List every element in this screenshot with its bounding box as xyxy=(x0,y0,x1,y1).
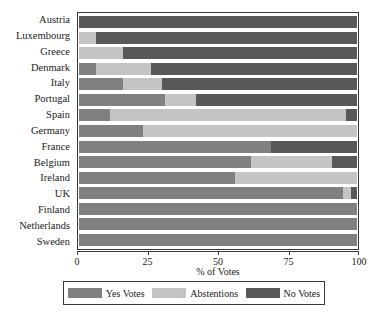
y-axis-label: Denmark xyxy=(0,62,73,74)
bar-row xyxy=(79,141,357,153)
legend-swatch xyxy=(246,288,280,298)
legend-item: Yes Votes xyxy=(68,288,145,299)
bar-row xyxy=(79,172,357,184)
bar-segment xyxy=(79,16,357,28)
bar-segment xyxy=(196,94,357,106)
bar-segment xyxy=(79,32,96,44)
bar-segment xyxy=(110,109,346,121)
bar-segment xyxy=(79,234,357,246)
bar-segment xyxy=(79,218,357,230)
x-axis-title: % of Votes xyxy=(77,266,359,277)
bar-row xyxy=(79,47,357,59)
legend-label: Yes Votes xyxy=(106,288,145,299)
bar-segment xyxy=(165,94,196,106)
vote-distribution-chart: of Votes by Country AustriaLuxembourgGre… xyxy=(0,0,388,312)
bar-segment xyxy=(332,156,357,168)
bar-segment xyxy=(79,78,123,90)
y-axis-label: Austria xyxy=(0,14,73,26)
bar-segment xyxy=(343,187,351,199)
legend-label: Abstentions xyxy=(190,288,238,299)
legend-item: No Votes xyxy=(246,288,321,299)
legend-label: No Votes xyxy=(284,288,321,299)
bar-row xyxy=(79,218,357,230)
y-axis-label: Greece xyxy=(0,46,73,58)
bar-row xyxy=(79,78,357,90)
bar-segment xyxy=(123,47,357,59)
y-axis-label: Ireland xyxy=(0,172,73,184)
bar-row xyxy=(79,156,357,168)
bar-segment xyxy=(123,78,162,90)
x-tick-mark xyxy=(148,251,149,255)
y-axis-label: UK xyxy=(0,188,73,200)
bar-segment xyxy=(79,47,123,59)
bar-segment xyxy=(79,109,110,121)
x-tick-mark xyxy=(218,251,219,255)
y-axis-label: Luxembourg xyxy=(0,30,73,42)
bar-segment xyxy=(271,141,357,153)
bar-segment xyxy=(162,78,357,90)
y-axis-label: Sweden xyxy=(0,236,73,248)
legend-swatch xyxy=(68,288,102,298)
y-axis-label: Belgium xyxy=(0,157,73,169)
x-tick-mark xyxy=(358,251,359,255)
bar-segment xyxy=(79,63,96,75)
y-axis-label: Portugal xyxy=(0,93,73,105)
legend-swatch xyxy=(152,288,186,298)
plot-area xyxy=(77,12,359,250)
y-axis-label: Netherlands xyxy=(0,220,73,232)
bar-row xyxy=(79,109,357,121)
bar-segment xyxy=(143,125,357,137)
bar-row xyxy=(79,234,357,246)
y-axis-label: Spain xyxy=(0,109,73,121)
bar-row xyxy=(79,63,357,75)
bar-segment xyxy=(151,63,357,75)
bar-segment xyxy=(79,156,251,168)
y-axis-category-labels: AustriaLuxembourgGreeceDenmarkItalyPortu… xyxy=(0,12,73,250)
bar-segment xyxy=(79,94,165,106)
bar-row xyxy=(79,203,357,215)
bar-segment xyxy=(79,141,271,153)
bar-segment xyxy=(346,109,357,121)
x-tick-mark xyxy=(77,251,78,255)
bar-segment xyxy=(79,125,143,137)
legend-item: Abstentions xyxy=(152,288,238,299)
bar-segment xyxy=(79,203,357,215)
y-axis-label: Finland xyxy=(0,204,73,216)
y-axis-label: Germany xyxy=(0,125,73,137)
bar-segment xyxy=(251,156,332,168)
chart-legend: Yes VotesAbstentionsNo Votes xyxy=(63,281,325,305)
bar-row xyxy=(79,187,357,199)
bar-segment xyxy=(96,32,357,44)
bar-row xyxy=(79,32,357,44)
bars-container xyxy=(79,14,357,248)
bar-row xyxy=(79,94,357,106)
bar-segment xyxy=(351,187,357,199)
bar-segment xyxy=(96,63,152,75)
bar-row xyxy=(79,125,357,137)
bar-row xyxy=(79,16,357,28)
x-tick-mark xyxy=(289,251,290,255)
y-axis-label: France xyxy=(0,141,73,153)
bar-segment xyxy=(235,172,357,184)
bar-segment xyxy=(79,187,343,199)
bar-segment xyxy=(79,172,235,184)
y-axis-label: Italy xyxy=(0,77,73,89)
